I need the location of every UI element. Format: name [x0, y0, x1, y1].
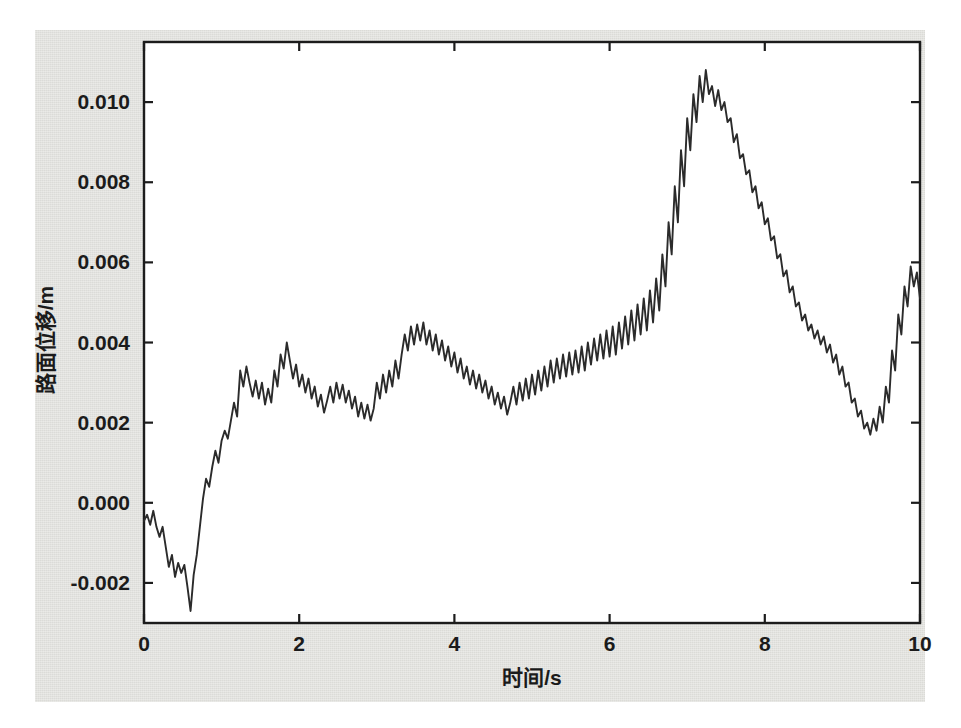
x-tick-label: 4 — [449, 632, 461, 655]
y-tick-label: 0.006 — [77, 250, 130, 273]
x-axis-title: 时间/s — [502, 666, 562, 689]
y-tick-label: 0.004 — [77, 331, 130, 354]
x-tick-label: 2 — [293, 632, 305, 655]
y-tick-label: 0.008 — [77, 170, 130, 193]
x-tick-label: 6 — [604, 632, 616, 655]
figure-root: 0246810 -0.0020.0000.0020.0040.0060.0080… — [0, 0, 961, 728]
y-axis-title: 路面位移/m — [34, 286, 57, 395]
y-tick-labels: -0.0020.0000.0020.0040.0060.0080.010 — [70, 90, 130, 594]
x-tick-label: 0 — [138, 632, 150, 655]
x-tick-labels: 0246810 — [138, 632, 932, 655]
x-tick-label: 10 — [908, 632, 931, 655]
y-tick-label: 0.010 — [77, 90, 130, 113]
plot-area-background — [144, 42, 920, 623]
x-tick-label: 8 — [759, 632, 771, 655]
y-tick-label: 0.000 — [77, 491, 130, 514]
y-tick-label: -0.002 — [70, 571, 130, 594]
y-tick-label: 0.002 — [77, 411, 130, 434]
road-displacement-line-chart: 0246810 -0.0020.0000.0020.0040.0060.0080… — [0, 0, 961, 728]
